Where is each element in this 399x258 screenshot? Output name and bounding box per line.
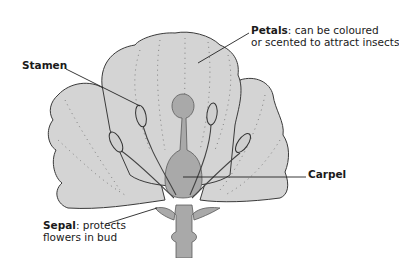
carpel-term: Carpel [308,168,346,180]
petals-separator: : [288,24,295,36]
label-stamen: Stamen [22,59,67,71]
sepal-term: Sepal [43,219,76,231]
sepal-description-line1: protects [83,219,126,231]
sepal-separator: : [76,219,83,231]
sepal-description-line2: flowers in bud [43,231,126,243]
label-petals: Petals: can be coloured or scented to at… [251,24,399,48]
petals-description-line2: or scented to attract insects [251,36,399,48]
label-sepal: Sepal: protects flowers in bud [43,219,126,243]
stamen-term: Stamen [22,59,67,71]
petals-term: Petals [251,24,288,36]
label-carpel: Carpel [308,168,346,180]
petals-description-line1: can be coloured [295,24,379,36]
stem-sepal [155,205,220,258]
